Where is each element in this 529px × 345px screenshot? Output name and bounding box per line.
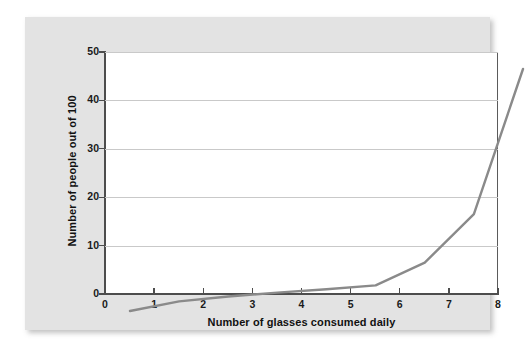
y-tick-mark-20: [99, 197, 105, 198]
x-tick-label-8: 8: [486, 299, 510, 310]
gridline-y-40: [105, 100, 498, 101]
x-tick-label-7: 7: [437, 299, 461, 310]
x-tick-label-wrap: 2: [191, 299, 215, 313]
y-tick-mark-40: [99, 100, 105, 101]
x-tick-label-4: 4: [290, 299, 314, 310]
x-tick-mark-6: [399, 288, 400, 294]
x-tick-mark-4: [301, 288, 302, 294]
y-tick-mark-10: [99, 245, 105, 246]
x-tick-label-wrap: 4: [290, 299, 314, 313]
x-tick-label-2: 2: [191, 299, 215, 310]
x-tick-label-wrap: 3: [240, 299, 264, 313]
y-tick-label-wrap: 40: [75, 94, 99, 106]
gridline-y-30: [105, 149, 498, 150]
x-tick-label-wrap: 8: [486, 299, 510, 313]
x-tick-mark-8: [497, 288, 498, 294]
x-tick-label-wrap: 7: [437, 299, 461, 313]
y-tick-label-wrap: 10: [75, 240, 99, 252]
x-tick-mark-7: [448, 288, 449, 294]
x-tick-label-6: 6: [388, 299, 412, 310]
plot-area: [105, 52, 498, 294]
x-tick-mark-3: [252, 288, 253, 294]
y-tick-label-wrap: 20: [75, 191, 99, 203]
y-axis-title: Number of people out of 100: [66, 50, 78, 292]
x-tick-label-wrap: 6: [388, 299, 412, 313]
gridline-y-20: [105, 197, 498, 198]
y-tick-label-0: 0: [77, 288, 99, 299]
x-tick-label-wrap: 1: [142, 299, 166, 313]
x-tick-label-3: 3: [240, 299, 264, 310]
x-tick-label-0: 0: [93, 299, 117, 310]
x-tick-mark-1: [153, 288, 154, 294]
y-tick-mark-0: [99, 293, 105, 294]
y-tick-label-30: 30: [77, 143, 99, 154]
gridline-y-50: [105, 52, 498, 53]
x-tick-label-wrap: 5: [339, 299, 363, 313]
x-tick-label-wrap: 0: [93, 299, 117, 313]
y-tick-label-50: 50: [77, 46, 99, 57]
y-tick-label-40: 40: [77, 94, 99, 105]
x-tick-mark-5: [350, 288, 351, 294]
gridline-y-10: [105, 246, 498, 247]
x-axis-title: Number of glasses consumed daily: [105, 316, 498, 328]
x-tick-label-5: 5: [339, 299, 363, 310]
y-tick-label-20: 20: [77, 191, 99, 202]
y-tick-label-10: 10: [77, 240, 99, 251]
chart-card: 50403020100 012345678 Number of people o…: [25, 17, 490, 330]
y-axis-line: [104, 51, 106, 295]
x-tick-label-1: 1: [142, 299, 166, 310]
y-tick-mark-30: [99, 148, 105, 149]
y-tick-mark-50: [99, 51, 105, 52]
y-tick-label-wrap: 30: [75, 143, 99, 155]
x-tick-mark-2: [203, 288, 204, 294]
y-tick-label-wrap: 50: [75, 46, 99, 58]
